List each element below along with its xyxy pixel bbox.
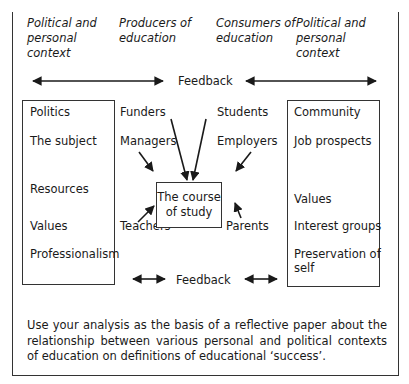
- arrow-icon: [138, 206, 154, 222]
- arrow-icon: [139, 152, 153, 171]
- arrow-icon: [236, 152, 251, 171]
- arrow-icon: [171, 119, 187, 180]
- instruction-text: Use your analysis as the basis of a refl…: [27, 318, 387, 365]
- arrow-icon: [193, 119, 206, 180]
- arrow-icon: [235, 203, 241, 218]
